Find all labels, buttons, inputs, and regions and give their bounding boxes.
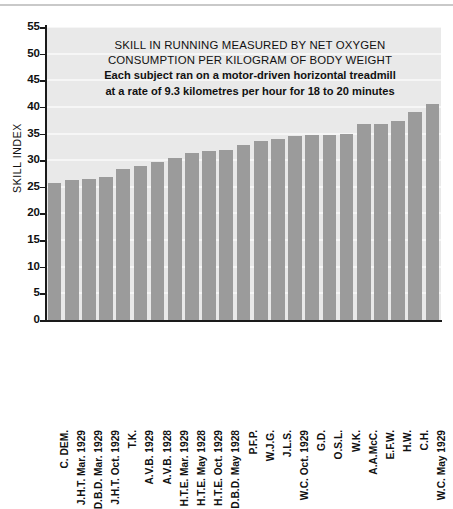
- x-axis-label: E.F.W.: [385, 430, 396, 459]
- bar: [48, 183, 62, 320]
- bar: [202, 151, 216, 320]
- bar: [426, 104, 440, 320]
- plot-area: [46, 27, 441, 320]
- x-axis-label: H.T.E. Mar. 1929: [179, 430, 190, 506]
- bar: [185, 153, 199, 320]
- x-axis-labels: C. DEM.J.H.T. Mar. 1929D.B.D. Mar. 1929J…: [46, 322, 441, 434]
- x-axis-label: W.J.G.: [265, 430, 276, 461]
- bar: [168, 158, 182, 320]
- x-axis-label: G.D.: [316, 430, 327, 451]
- x-axis-label: D.B.D. Mar. 1929: [93, 430, 104, 509]
- bar: [151, 162, 165, 320]
- bar: [271, 139, 285, 320]
- x-axis-label: W.K.: [351, 430, 362, 452]
- x-axis-label: C.H.: [419, 430, 430, 450]
- bar: [288, 136, 302, 320]
- bar: [134, 166, 148, 320]
- y-axis-tick-label: 50: [6, 47, 40, 59]
- x-axis-label: P.F.P.: [248, 430, 259, 455]
- bar: [254, 141, 268, 320]
- y-axis-ticks: 0510152025303540455055: [0, 0, 40, 434]
- y-axis-tick-label: 0: [6, 313, 40, 325]
- bar-series: [46, 27, 441, 320]
- x-axis-label: H.W.: [402, 430, 413, 452]
- bar: [340, 134, 354, 320]
- bar: [357, 124, 371, 320]
- y-axis-tick-label: 55: [6, 20, 40, 32]
- bar: [305, 135, 319, 320]
- x-axis-label: A.V.B. 1928: [162, 430, 173, 485]
- x-axis-label: O.S.L.: [333, 430, 344, 459]
- bar: [408, 112, 422, 320]
- y-axis-tick-label: 20: [6, 206, 40, 218]
- x-axis-label: A.A.McC.: [368, 430, 379, 475]
- bar: [237, 145, 251, 320]
- bar: [391, 121, 405, 320]
- x-axis-label: H.T.E. Oct. 1929: [213, 430, 224, 506]
- x-axis-label: A.V.B. 1929: [144, 430, 155, 485]
- bar: [82, 179, 96, 320]
- x-axis-label: W.C. May 1929: [436, 430, 447, 500]
- bar: [219, 150, 233, 320]
- y-axis-tick-label: 10: [6, 260, 40, 272]
- y-axis-tick-label: 45: [6, 73, 40, 85]
- x-axis-label: C. DEM.: [59, 430, 70, 469]
- y-axis-tick-label: 15: [6, 233, 40, 245]
- x-axis-label: D.B.D. May 1928: [230, 430, 241, 509]
- y-axis-line: [45, 25, 47, 322]
- bar: [374, 124, 388, 320]
- x-axis-label: J.H.T. Mar. 1929: [76, 430, 87, 505]
- x-axis-label: T.K.: [127, 430, 138, 448]
- bar: [99, 177, 113, 320]
- bar: [323, 135, 337, 320]
- bar: [65, 180, 79, 320]
- y-axis-tick-label: 5: [6, 286, 40, 298]
- y-axis-title: SKILL INDEX: [11, 108, 23, 208]
- x-axis-label: J.L.S.: [282, 430, 293, 457]
- x-axis-label: J.H.T. Oct. 1929: [110, 430, 121, 505]
- x-axis-label: H.T.E. May 1928: [196, 430, 207, 506]
- bar: [116, 169, 130, 320]
- x-axis-label: W.C. Oct. 1929: [299, 430, 310, 500]
